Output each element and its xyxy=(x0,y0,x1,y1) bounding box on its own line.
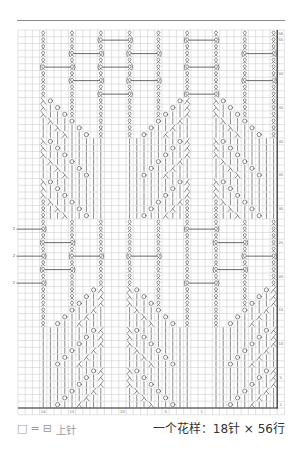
cable-twisted-right-icon xyxy=(243,267,248,272)
decrease-ren-glyph-icon xyxy=(257,314,262,319)
twisted-knit-icon xyxy=(42,78,45,83)
row-number-label: 55 xyxy=(278,37,283,42)
decrease-ru-glyph-icon xyxy=(214,152,219,157)
twisted-knit-icon xyxy=(215,308,218,313)
twisted-knit-icon xyxy=(42,51,45,56)
cable-twisted-right-icon xyxy=(157,78,162,83)
decrease-ru-glyph-icon xyxy=(48,118,53,123)
yarn-over-icon xyxy=(56,187,60,191)
decrease-ren-glyph-icon xyxy=(264,307,269,312)
cable-twisted-right-icon xyxy=(272,254,276,259)
decrease-ru-glyph-icon xyxy=(228,166,233,171)
twisted-knit-icon xyxy=(128,31,131,36)
twisted-knit-icon xyxy=(186,315,189,320)
decrease-ru-glyph-icon xyxy=(221,118,226,123)
decrease-ren-glyph-icon xyxy=(185,139,190,144)
yarn-over-icon xyxy=(156,119,160,123)
yarn-over-icon xyxy=(228,403,232,407)
twisted-knit-icon xyxy=(243,72,246,77)
column-number-label: 5 xyxy=(164,409,167,414)
yarn-over-icon xyxy=(77,126,81,130)
twisted-knit-icon xyxy=(99,261,102,266)
twisted-knit-icon xyxy=(99,99,102,104)
yarn-over-icon xyxy=(77,166,81,170)
twisted-knit-icon xyxy=(128,119,131,124)
edge-cable-mark: 2 xyxy=(13,253,16,258)
twisted-knit-icon xyxy=(272,119,275,124)
decrease-ren-glyph-icon xyxy=(185,186,190,191)
twisted-knit-icon xyxy=(215,200,218,205)
yarn-over-icon xyxy=(149,342,153,346)
twisted-knit-icon xyxy=(215,31,218,36)
twisted-knit-icon xyxy=(186,85,189,90)
yarn-over-icon xyxy=(257,214,261,218)
decrease-ren-glyph-icon xyxy=(185,98,190,103)
twisted-knit-icon xyxy=(243,281,246,286)
twisted-knit-icon xyxy=(42,321,45,326)
twisted-knit-icon xyxy=(272,227,275,232)
cable-twisted-left-icon xyxy=(40,240,45,245)
cable-twisted-left-icon xyxy=(40,267,45,272)
decrease-ren-glyph-icon xyxy=(271,368,276,373)
twisted-knit-icon xyxy=(42,213,45,218)
twisted-knit-icon xyxy=(71,105,74,110)
yarn-over-icon xyxy=(264,328,268,332)
decrease-ren-glyph-icon xyxy=(178,118,183,123)
twisted-knit-icon xyxy=(272,132,275,137)
decrease-ru-glyph-icon xyxy=(228,206,233,211)
yarn-over-icon xyxy=(164,396,168,400)
decrease-ren-glyph-icon xyxy=(99,382,104,387)
decrease-ren-glyph-icon xyxy=(99,301,104,306)
twisted-knit-icon xyxy=(272,267,275,272)
chart-border xyxy=(18,30,278,409)
yarn-over-icon xyxy=(56,403,60,407)
yarn-over-icon xyxy=(264,369,268,373)
cable-twisted-right-icon xyxy=(215,65,220,70)
twisted-knit-icon xyxy=(128,126,131,131)
decrease-ru-glyph-icon xyxy=(135,388,140,393)
decrease-ru-glyph-icon xyxy=(149,361,154,366)
twisted-knit-icon xyxy=(99,281,102,286)
twisted-knit-icon xyxy=(272,234,275,239)
yarn-over-icon xyxy=(171,187,175,191)
cable-twisted-left-icon xyxy=(184,38,189,43)
twisted-knit-icon xyxy=(99,58,102,63)
cable-twisted-right-icon xyxy=(215,227,220,232)
decrease-ren-glyph-icon xyxy=(271,287,276,292)
twisted-knit-icon xyxy=(243,227,246,232)
twisted-knit-icon xyxy=(71,247,74,252)
yarn-over-icon xyxy=(84,133,88,137)
yarn-over-icon xyxy=(92,369,96,373)
decrease-ren-glyph-icon xyxy=(163,213,168,218)
twisted-knit-icon xyxy=(243,65,246,70)
decrease-ru-glyph-icon xyxy=(235,172,240,177)
yarn-over-icon xyxy=(236,153,240,157)
cable-twisted-right-icon xyxy=(99,78,104,83)
yarn-over-icon xyxy=(250,301,254,305)
yarn-over-icon xyxy=(56,322,60,326)
yarn-over-icon xyxy=(149,166,153,170)
yarn-over-icon xyxy=(70,389,74,393)
decrease-ren-glyph-icon xyxy=(171,166,176,171)
decrease-ru-glyph-icon xyxy=(235,132,240,137)
row-number-label: 20 xyxy=(278,274,283,279)
yarn-over-icon xyxy=(171,146,175,150)
twisted-knit-icon xyxy=(42,31,45,36)
twisted-knit-icon xyxy=(42,72,45,77)
cable-twisted-left-icon xyxy=(69,78,74,83)
yarn-over-icon xyxy=(228,322,232,326)
yarn-over-icon xyxy=(264,288,268,292)
yarn-over-icon xyxy=(56,106,60,110)
yarn-over-icon xyxy=(156,308,160,312)
row-number-label: 50 xyxy=(278,71,283,76)
yarn-over-icon xyxy=(236,193,240,197)
yarn-over-icon xyxy=(236,315,240,319)
cable-twisted-right-icon xyxy=(128,65,133,70)
yarn-over-icon xyxy=(156,200,160,204)
decrease-ru-glyph-icon xyxy=(214,139,219,144)
twisted-knit-icon xyxy=(272,274,275,279)
twisted-knit-icon xyxy=(157,281,160,286)
yarn-over-icon xyxy=(164,355,168,359)
decrease-ren-glyph-icon xyxy=(250,321,255,326)
cable-twisted-right-icon xyxy=(128,38,133,43)
